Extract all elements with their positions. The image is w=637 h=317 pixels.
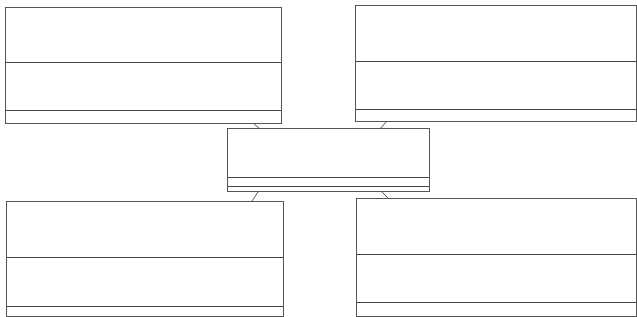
class-attributes-compartment[interactable]: [6, 63, 281, 111]
class-attributes-compartment[interactable]: [357, 255, 636, 303]
class-methods-compartment[interactable]: [357, 303, 636, 316]
class-methods-compartment[interactable]: [356, 110, 636, 121]
class-box-bottom-right[interactable]: [356, 198, 637, 317]
class-name-compartment[interactable]: [228, 129, 429, 178]
class-box-top-left[interactable]: [5, 7, 282, 124]
class-attributes-compartment[interactable]: [228, 178, 429, 187]
class-box-top-right[interactable]: [355, 5, 637, 122]
class-attributes-compartment[interactable]: [356, 62, 636, 110]
class-name-compartment[interactable]: [356, 6, 636, 62]
association-line[interactable]: [252, 192, 258, 201]
class-name-compartment[interactable]: [7, 202, 283, 258]
class-methods-compartment[interactable]: [7, 307, 283, 316]
class-methods-compartment[interactable]: [228, 187, 429, 191]
class-attributes-compartment[interactable]: [7, 258, 283, 307]
class-box-bottom-left[interactable]: [6, 201, 284, 317]
class-name-compartment[interactable]: [357, 199, 636, 255]
class-methods-compartment[interactable]: [6, 111, 281, 123]
class-name-compartment[interactable]: [6, 8, 281, 63]
class-box-center[interactable]: [227, 128, 430, 192]
